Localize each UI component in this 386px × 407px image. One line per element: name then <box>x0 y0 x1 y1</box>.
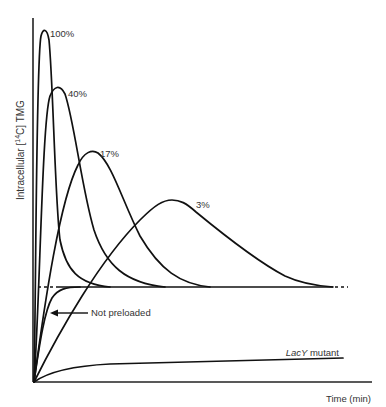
label-17: 17% <box>100 148 120 159</box>
x-axis-label: Time (min) <box>326 393 371 404</box>
label-100: 100% <box>50 28 75 39</box>
curve-17 <box>34 151 210 382</box>
label-not-preloaded: Not preloaded <box>91 307 151 318</box>
label-3: 3% <box>196 199 210 210</box>
y-axis-label: Intracellular [14C] TMG <box>14 100 26 200</box>
arrow-head-icon <box>50 310 58 317</box>
chart-canvas: Intracellular [14C] TMG Time (min) 100% … <box>0 0 386 407</box>
curve-100 <box>34 30 110 382</box>
curve-lacy-mutant <box>34 358 343 382</box>
label-lacy-mutant: LacY mutant <box>286 347 340 358</box>
label-40: 40% <box>68 88 88 99</box>
